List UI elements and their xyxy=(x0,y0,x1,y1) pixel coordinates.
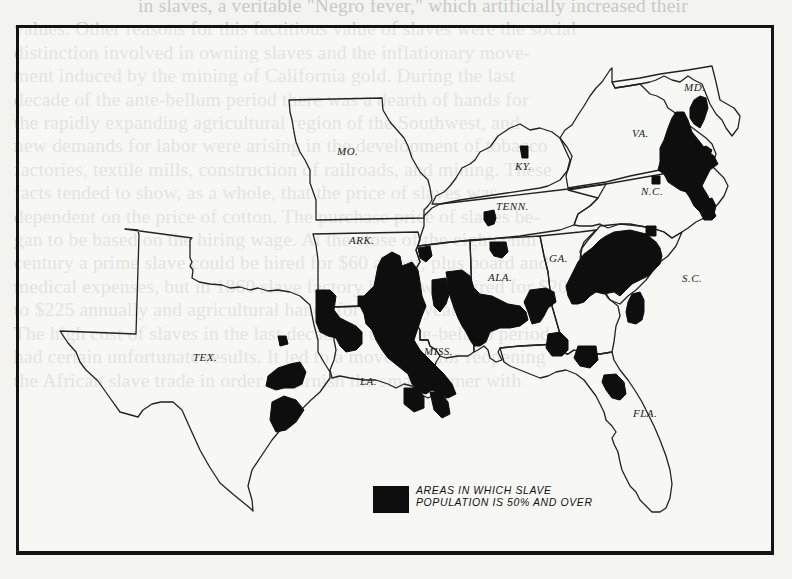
state-label-ky: KY. xyxy=(515,160,532,172)
legend-line-1: AREAS IN WHICH SLAVE xyxy=(416,484,593,496)
area-tennessee xyxy=(484,210,496,226)
area-miss-east xyxy=(432,278,450,312)
area-nc-east xyxy=(704,198,716,214)
area-ga-sc-belt xyxy=(566,230,662,304)
state-label-ark: ARK. xyxy=(349,234,375,246)
area-nc-2 xyxy=(646,226,656,236)
state-label-la: LA. xyxy=(360,375,377,387)
area-md-va-tidewater xyxy=(690,96,708,128)
area-ga-sw xyxy=(546,332,568,356)
area-nc-1 xyxy=(652,176,660,184)
area-texas-3 xyxy=(270,396,304,432)
area-arkansas-river xyxy=(358,296,374,308)
area-texas-2 xyxy=(266,362,306,390)
legend-label: AREAS IN WHICH SLAVE POPULATION IS 50% A… xyxy=(416,484,593,508)
area-arkansas-south xyxy=(316,290,362,352)
area-alabama-belt xyxy=(446,270,528,346)
area-alabama-north xyxy=(490,242,508,258)
state-label-sc: S.C. xyxy=(682,272,702,284)
state-label-tex: TEX. xyxy=(193,351,217,363)
legend-line-2: POPULATION IS 50% AND OVER xyxy=(416,496,593,508)
state-kentucky xyxy=(432,124,572,204)
area-texas-1 xyxy=(278,336,288,346)
state-label-miss: MISS. xyxy=(424,345,453,357)
state-label-ala: ALA. xyxy=(488,271,512,283)
state-label-tenn: TENN. xyxy=(496,200,529,212)
area-ga-south xyxy=(574,346,598,368)
area-sc-coast xyxy=(626,292,644,324)
state-label-fla: FLA. xyxy=(633,407,657,419)
state-label-ga: GA. xyxy=(549,252,568,264)
area-ga-central xyxy=(524,288,556,324)
area-kentucky xyxy=(520,146,528,158)
legend-swatch xyxy=(373,486,409,513)
slave-majority-areas xyxy=(266,96,718,432)
state-label-md: MD. xyxy=(684,81,705,93)
state-missouri xyxy=(289,98,432,220)
state-label-va: VA. xyxy=(632,127,649,139)
state-label-mo: MO. xyxy=(337,145,358,157)
area-florida xyxy=(602,374,626,400)
state-label-nc: N.C. xyxy=(641,185,663,197)
area-miss-north xyxy=(418,246,432,262)
